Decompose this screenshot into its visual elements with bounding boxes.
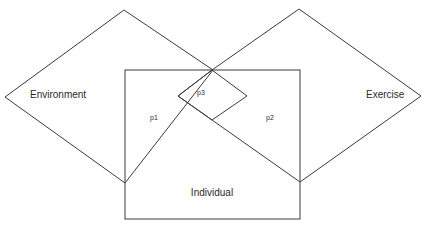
- region-p1-label: p1: [150, 114, 158, 122]
- overlap-diamond: [178, 70, 247, 120]
- individual-label: Individual: [191, 187, 233, 198]
- region-p3-label: p3: [197, 89, 205, 97]
- region-p2-label: p2: [266, 114, 274, 122]
- exercise-label: Exercise: [366, 89, 405, 100]
- diagram-canvas: Environment Exercise Individual p1 p2 p3: [0, 0, 426, 225]
- environment-label: Environment: [30, 89, 86, 100]
